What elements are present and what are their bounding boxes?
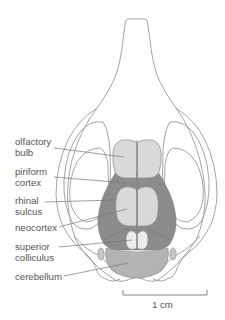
label-piriform-cortex: piriform cortex [15,166,47,188]
scale-bar-label: 1 cm [152,299,173,310]
paraflocculus-left [98,248,104,260]
label-cerebellum: cerebellum [15,271,62,282]
neocortex-right [138,187,159,226]
paraflocculus-right [170,248,176,260]
label-superior-colliculus: superior colliculus [15,241,54,263]
superior-colliculus-right [138,231,149,250]
scale-bar [123,290,207,295]
neocortex-left [116,187,137,226]
cerebellum [106,248,169,278]
label-rhinal-sulcus: rhinal sulcus [15,195,42,217]
olfactory-bulb-left [113,140,137,178]
label-olfactory-bulb: olfactory bulb [15,136,51,158]
olfactory-bulb-right [138,140,162,178]
label-neocortex: neocortex [15,222,57,233]
